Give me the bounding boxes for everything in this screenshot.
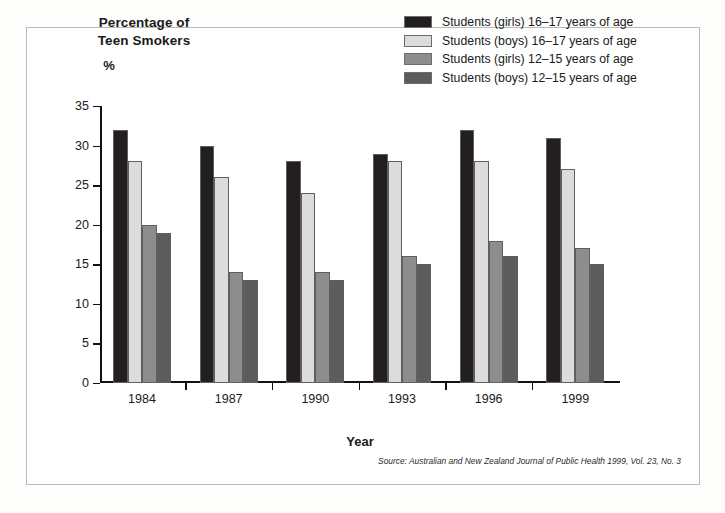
x-axis-tick-label: 1987 — [215, 392, 243, 406]
bar[interactable] — [590, 264, 605, 383]
legend-swatch — [404, 53, 432, 65]
x-axis-tick-label: 1990 — [301, 392, 329, 406]
bar-group — [286, 106, 344, 383]
bar[interactable] — [402, 256, 417, 383]
y-axis-tick — [93, 185, 100, 186]
bar[interactable] — [474, 161, 489, 383]
bar[interactable] — [286, 161, 301, 383]
bar[interactable] — [157, 233, 172, 383]
bar[interactable] — [561, 169, 576, 383]
bar[interactable] — [417, 264, 432, 383]
bar-group — [546, 106, 604, 383]
chart-title: Percentage of Teen Smokers — [44, 14, 244, 50]
legend-label: Students (girls) 16–17 years of age — [442, 15, 633, 29]
x-axis-group-tick — [272, 383, 273, 390]
legend-item[interactable]: Students (boys) 12–15 years of age — [404, 69, 637, 88]
bar[interactable] — [330, 280, 345, 383]
y-axis-tick-label: 15 — [75, 258, 89, 271]
legend-item[interactable]: Students (girls) 16–17 years of age — [404, 13, 637, 32]
y-axis-tick-label: 10 — [75, 298, 89, 311]
legend-item[interactable]: Students (boys) 16–17 years of age — [404, 32, 637, 51]
legend-label: Students (boys) 16–17 years of age — [442, 34, 637, 48]
y-axis-tick — [93, 106, 100, 107]
x-axis-group-tick — [445, 383, 446, 390]
x-axis-tick-label: 1993 — [388, 392, 416, 406]
source-note: Source: Australian and New Zealand Journ… — [378, 456, 681, 466]
bar[interactable] — [460, 130, 475, 383]
x-axis-tick-label: 1996 — [475, 392, 503, 406]
bar[interactable] — [315, 272, 330, 383]
y-axis-tick — [93, 383, 100, 384]
y-axis-tick-label: 20 — [75, 218, 89, 231]
x-axis-group-tick — [532, 383, 533, 390]
bar-group — [460, 106, 518, 383]
bar[interactable] — [503, 256, 518, 383]
bar-group — [373, 106, 431, 383]
bar[interactable] — [113, 130, 128, 383]
bar[interactable] — [489, 241, 504, 383]
bar[interactable] — [200, 146, 215, 383]
bar-group — [113, 106, 171, 383]
y-axis-tick — [93, 225, 100, 226]
legend-swatch — [404, 35, 432, 47]
chart-title-line-2: Teen Smokers — [44, 32, 244, 50]
legend-item[interactable]: Students (girls) 12–15 years of age — [404, 50, 637, 69]
bar[interactable] — [388, 161, 403, 383]
y-axis-line — [100, 106, 102, 383]
y-axis-tick-label: 5 — [82, 337, 89, 350]
bar[interactable] — [301, 193, 316, 383]
x-axis-tick-label: 1984 — [128, 392, 156, 406]
x-axis-group-tick — [359, 383, 360, 390]
legend-swatch — [404, 72, 432, 84]
bar[interactable] — [575, 248, 590, 383]
y-axis-tick — [93, 343, 100, 344]
y-axis-tick — [93, 264, 100, 265]
y-axis-tick-label: 35 — [75, 100, 89, 113]
y-axis-tick — [93, 146, 100, 147]
x-axis-group-tick — [185, 383, 186, 390]
x-axis-title: Year — [100, 434, 620, 449]
bar[interactable] — [243, 280, 258, 383]
bar[interactable] — [373, 154, 388, 384]
bar[interactable] — [229, 272, 244, 383]
bar[interactable] — [128, 161, 143, 383]
y-axis-tick-label: 25 — [75, 179, 89, 192]
y-axis-tick-label: 30 — [75, 139, 89, 152]
bar[interactable] — [546, 138, 561, 383]
bar-group — [200, 106, 258, 383]
y-axis-tick-label: 0 — [82, 377, 89, 390]
legend-label: Students (boys) 12–15 years of age — [442, 71, 637, 85]
plot-area: 05101520253035198419871990199319961999 — [100, 106, 620, 383]
bar[interactable] — [214, 177, 229, 383]
x-axis-tick-label: 1999 — [561, 392, 589, 406]
chart-legend: Students (girls) 16–17 years of ageStude… — [404, 13, 637, 87]
y-axis-unit-label: % — [44, 58, 174, 73]
y-axis-tick — [93, 304, 100, 305]
chart-title-line-1: Percentage of — [44, 14, 244, 32]
legend-swatch — [404, 16, 432, 28]
bar[interactable] — [142, 225, 157, 383]
legend-label: Students (girls) 12–15 years of age — [442, 52, 633, 66]
